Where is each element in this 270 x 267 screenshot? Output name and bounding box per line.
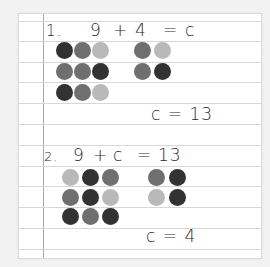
counter-dot-light [154, 42, 171, 59]
counter-dot-dark [62, 208, 79, 225]
counter-dot-dark [92, 63, 109, 80]
counter-dot-medium [148, 169, 165, 186]
counter-dot-dark [82, 189, 99, 206]
ruled-line [19, 249, 261, 250]
equation-result: c [185, 22, 195, 39]
counter-dot-dark [82, 169, 99, 186]
counter-dot-light [92, 84, 109, 101]
equation-result: 13 [158, 147, 182, 164]
ruled-line [19, 228, 261, 229]
ruled-line [19, 82, 261, 83]
counter-dot-medium [74, 42, 91, 59]
equation-term-a: 9 [73, 147, 85, 164]
ruled-line [19, 166, 261, 167]
problem-number: 2. [44, 150, 58, 163]
counter-dot-light [92, 42, 109, 59]
counter-dot-dark [169, 189, 186, 206]
equation-operator: + [113, 22, 128, 39]
counter-dot-dark [56, 84, 73, 101]
answer: c = 13 [151, 106, 213, 123]
counter-dot-dark [154, 63, 171, 80]
counter-dot-medium [74, 84, 91, 101]
counter-dot-medium [134, 63, 151, 80]
counter-dot-dark [56, 42, 73, 59]
ruled-line [19, 207, 261, 208]
equation-term-a: 9 [90, 22, 102, 39]
ruled-line [19, 124, 261, 125]
equation-term-b: c [113, 147, 123, 164]
answer: c = 4 [146, 228, 196, 245]
ruled-line [19, 186, 261, 187]
counter-dot-light [62, 169, 79, 186]
equation-term-b: 4 [135, 22, 147, 39]
ruled-line [19, 103, 261, 104]
equation-equals: = [163, 22, 178, 39]
problem-number: 1. [46, 24, 62, 39]
counter-dot-medium [134, 42, 151, 59]
counter-dot-dark [102, 208, 119, 225]
counter-dot-medium [62, 189, 79, 206]
equation-operator: + [93, 147, 108, 164]
counter-dot-dark [169, 169, 186, 186]
counter-dot-medium [102, 169, 119, 186]
equation-equals: = [137, 147, 152, 164]
counter-dot-medium [82, 208, 99, 225]
counter-dot-medium [56, 63, 73, 80]
counter-dot-medium [74, 63, 91, 80]
counter-dot-light [102, 189, 119, 206]
margin-line [43, 14, 44, 258]
counter-dot-light [148, 189, 165, 206]
